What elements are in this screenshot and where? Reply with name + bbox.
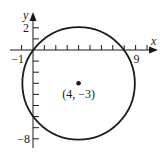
center-point-label: (4, −3)	[62, 87, 95, 101]
x-ticks	[22, 45, 147, 50]
y-axis-arrow-icon	[30, 12, 37, 21]
y-tick-label-neg8: −8	[17, 132, 30, 146]
axes	[10, 12, 158, 148]
figure-svg: (4, −3) x y −1 9 2 −8	[0, 0, 163, 155]
x-tick-label-neg1: −1	[11, 52, 24, 66]
x-tick-label-9: 9	[134, 52, 140, 66]
coordinate-figure: (4, −3) x y −1 9 2 −8	[0, 0, 163, 155]
center-point	[76, 81, 81, 86]
x-axis-label: x	[150, 34, 157, 48]
y-tick-label-2: 2	[23, 21, 29, 35]
